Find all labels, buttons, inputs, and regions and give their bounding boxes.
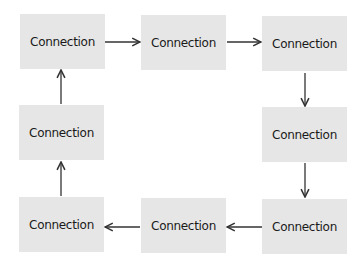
node-bottom-center: Connection <box>141 198 226 253</box>
node-top-center: Connection <box>141 15 226 70</box>
node-bottom-left: Connection <box>19 197 104 252</box>
node-middle-left: Connection <box>19 105 104 160</box>
node-middle-right: Connection <box>262 107 347 162</box>
node-top-right: Connection <box>262 16 347 71</box>
node-bottom-right: Connection <box>262 199 347 254</box>
node-top-left: Connection <box>20 14 105 69</box>
